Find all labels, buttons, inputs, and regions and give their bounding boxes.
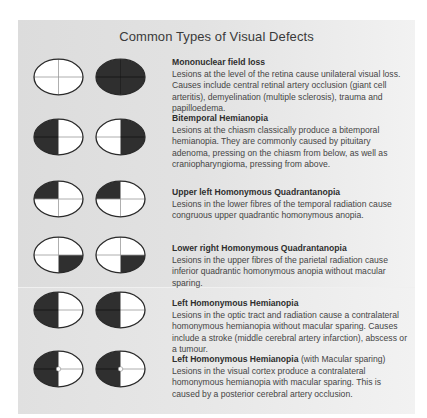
defect-heading: Left Homonymous Hemianopia: [172, 298, 299, 308]
defect-heading: Upper left Homonymous Quadrantanopia: [172, 187, 340, 197]
right-eye-field-diagram: [95, 180, 146, 218]
visual-field-icon: [95, 236, 146, 274]
right-eye-field-diagram: [95, 118, 146, 156]
visual-field-icon: [33, 291, 84, 329]
defect-heading: Bitemporal Hemianopia: [172, 113, 268, 123]
defect-description-block: Left Homonymous Hemianopia (with Macular…: [172, 354, 407, 400]
visual-field-icon: [95, 58, 146, 96]
right-eye-field-diagram: [95, 58, 146, 96]
left-eye-field-diagram: [33, 58, 84, 96]
right-eye-field-diagram: [95, 291, 146, 329]
left-eye-field-diagram: [33, 180, 84, 218]
left-eye-field-diagram: [33, 291, 84, 329]
defect-description-block: Left Homonymous Hemianopia Lesions in th…: [172, 298, 407, 355]
visual-field-icon: [33, 58, 84, 96]
visual-field-icon: [33, 236, 84, 274]
defect-heading: Left Homonymous Hemianopia: [172, 354, 299, 364]
defect-description: Lesions in the visual cortex produce a c…: [172, 366, 407, 400]
visual-field-icon: [33, 118, 84, 156]
visual-field-icon: [33, 180, 84, 218]
left-eye-field-diagram: [33, 350, 84, 388]
defect-description: Lesions in the upper fibres of the parie…: [172, 255, 407, 289]
defect-description: Lesions in the lower fibres of the tempo…: [172, 199, 407, 221]
visual-field-icon: [95, 118, 146, 156]
left-eye-field-diagram: [33, 118, 84, 156]
page-title: Common Types of Visual Defects: [18, 29, 415, 44]
defect-description-block: Mononuclear field loss Lesions at the le…: [172, 57, 407, 114]
defect-description-block: Bitemporal Hemianopia Lesions at the chi…: [172, 113, 407, 170]
right-eye-field-diagram: [95, 350, 146, 388]
defect-heading: Mononuclear field loss: [172, 57, 265, 67]
visual-defects-panel: Common Types of Visual Defects: [18, 20, 415, 413]
defect-heading: Lower right Homonymous Quadrantanopia: [172, 243, 347, 253]
visual-field-icon: [33, 350, 84, 388]
visual-field-icon: [95, 180, 146, 218]
defect-description: Lesions in the optic tract and radiation…: [172, 310, 407, 355]
defect-description: Lesions at the chiasm classically produc…: [172, 125, 407, 170]
left-eye-field-diagram: [33, 236, 84, 274]
defect-heading-suffix: (with Macular sparing): [299, 354, 386, 364]
right-eye-field-diagram: [95, 236, 146, 274]
defect-description-block: Lower right Homonymous Quadrantanopia Le…: [172, 243, 407, 289]
visual-field-icon: [95, 291, 146, 329]
defect-description: Lesions at the level of the retina cause…: [172, 69, 407, 114]
defect-description-block: Upper left Homonymous Quadrantanopia Les…: [172, 187, 407, 222]
visual-field-icon: [95, 350, 146, 388]
